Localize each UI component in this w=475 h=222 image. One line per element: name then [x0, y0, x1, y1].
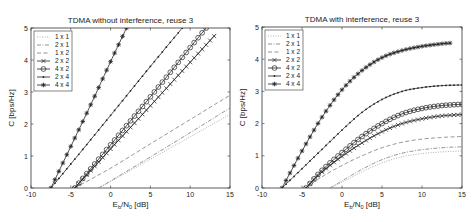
y-axis-label: C [bps/Hz] [238, 89, 247, 126]
figure: TDMA without interference, reuse 3-10-50… [0, 0, 475, 222]
x-tick-label: -10 [26, 191, 36, 198]
y-tick-label: 2 [255, 120, 259, 127]
y-tick-label: 4 [24, 57, 28, 64]
x-tick-label: -10 [257, 191, 267, 198]
legend-entry: 4 x 2 [286, 64, 300, 71]
legend-entry: 2 x 2 [286, 56, 300, 63]
legend-entry: 1 x 1 [286, 32, 300, 39]
y-tick-label: 5 [255, 24, 259, 31]
plot-without-interference: TDMA without interference, reuse 3-10-50… [7, 16, 234, 210]
legend-entry: 4 x 4 [55, 81, 69, 88]
legend-entry: 1 x 2 [55, 49, 69, 56]
x-axis-label: Eb/N0 [dB] [113, 200, 149, 210]
x-tick-label: 15 [458, 191, 466, 198]
legend-entry: 2 x 1 [286, 40, 300, 47]
y-tick-label: 1 [255, 152, 259, 159]
legend-entry: 1 x 2 [286, 48, 300, 55]
x-tick-label: -5 [299, 191, 305, 198]
y-axis-label: C [bps/Hz] [7, 89, 16, 126]
legend: 1 x 12 x 11 x 22 x 24 x 22 x 44 x 4 [34, 31, 72, 91]
y-tick-label: 0 [24, 185, 28, 192]
x-tick-label: 0 [109, 191, 113, 198]
x-axis-label: Eb/N0 [dB] [344, 200, 380, 210]
x-tick-label: 10 [418, 191, 426, 198]
y-tick-label: 1 [24, 153, 28, 160]
y-tick-label: 0 [255, 185, 259, 192]
y-tick-label: 2 [24, 121, 28, 128]
x-tick-label: -5 [68, 191, 74, 198]
legend-entry: 1 x 1 [55, 33, 69, 40]
legend-entry: 2 x 1 [55, 41, 69, 48]
chart-title: TDMA with interference, reuse 3 [305, 15, 420, 24]
y-tick-label: 3 [24, 89, 28, 96]
legend-entry: 4 x 2 [55, 65, 69, 72]
y-tick-label: 4 [255, 56, 259, 63]
x-tick-label: 15 [226, 191, 234, 198]
y-tick-label: 5 [24, 25, 28, 32]
legend-entry: 2 x 2 [55, 57, 69, 64]
legend-entry: 2 x 4 [286, 72, 300, 79]
x-tick-label: 5 [148, 191, 152, 198]
legend: 1 x 12 x 11 x 22 x 24 x 22 x 44 x 4 [265, 30, 303, 90]
x-tick-label: 0 [340, 191, 344, 198]
legend-entry: 4 x 4 [286, 80, 300, 87]
plot-with-interference: TDMA with interference, reuse 3-10-50510… [238, 15, 466, 210]
x-tick-label: 5 [380, 191, 384, 198]
chart-title: TDMA without interference, reuse 3 [68, 16, 194, 25]
y-tick-label: 3 [255, 88, 259, 95]
legend-entry: 2 x 4 [55, 73, 69, 80]
x-tick-label: 10 [186, 191, 194, 198]
